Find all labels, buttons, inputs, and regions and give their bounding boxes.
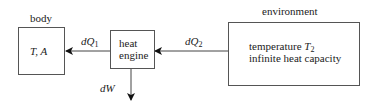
body-box: T, A: [18, 27, 65, 75]
heat-engine-box: heat engine: [110, 30, 155, 69]
environment-title: environment: [262, 5, 318, 17]
flow-dw-label: dW: [100, 82, 115, 94]
engine-line1: heat: [119, 37, 137, 49]
environment-line2: infinite heat capacity: [249, 52, 341, 64]
environment-line1: temperature T2: [249, 40, 314, 52]
engine-line2: engine: [119, 49, 148, 61]
body-title: body: [30, 12, 52, 24]
flow-dq1-label: dQ1: [81, 35, 98, 47]
environment-box: temperature T2 infinite heat capacity: [228, 22, 360, 86]
flow-dq2-label: dQ2: [185, 35, 202, 47]
body-content: T, A: [30, 45, 47, 57]
